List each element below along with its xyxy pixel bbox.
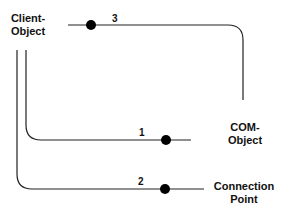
- connector-2-dot: [160, 184, 170, 194]
- client-label-line2: Object: [8, 25, 48, 38]
- connector-1-dot: [161, 135, 171, 145]
- com-label-line1: COM-: [222, 121, 268, 134]
- connector-3-dot: [86, 20, 96, 30]
- connection-point-label: Connection Point: [209, 180, 279, 206]
- com-object-label: COM- Object: [222, 121, 268, 147]
- connection-label-line2: Point: [209, 193, 279, 206]
- connector-1: [26, 50, 191, 140]
- connector-2: [17, 50, 204, 189]
- connector-2-label: 2: [138, 176, 144, 187]
- connection-label-line1: Connection: [209, 180, 279, 193]
- connector-1-label: 1: [139, 127, 145, 138]
- client-object-label: Client- Object: [8, 12, 48, 38]
- client-label-line1: Client-: [8, 12, 48, 25]
- connector-3-label: 3: [112, 13, 118, 24]
- com-label-line2: Object: [222, 134, 268, 147]
- connector-3: [68, 25, 243, 100]
